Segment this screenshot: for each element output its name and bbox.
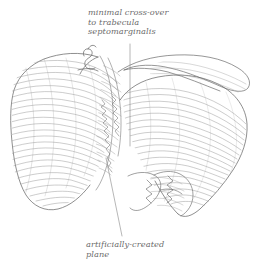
right-lobe-hook-fibres [124,62,246,92]
right-lobe-fibres [118,78,246,207]
papillary-notch-fibres [148,177,184,211]
annotation-line: septomarginalis [88,27,169,37]
minimal-cross-over-label: minimal cross-over to trabecula septomar… [88,8,169,37]
anatomical-figure: minimal cross-over to trabecula septomar… [0,0,260,275]
line-drawing [0,0,260,275]
annotation-line: plane [86,250,164,260]
artificially-created-plane-label: artificially-created plane [86,240,164,259]
papillary-notch [128,171,193,216]
drawing-ink [4,44,250,236]
right-lobe-hook [118,55,250,91]
leader-line-bottom [106,158,122,236]
